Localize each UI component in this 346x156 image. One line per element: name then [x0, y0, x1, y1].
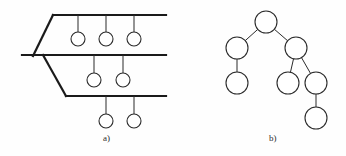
panel-b-caption: b): [269, 133, 277, 143]
edge-right-right: [301, 58, 310, 74]
figure-canvas: [0, 0, 346, 156]
edge-root-right: [274, 29, 287, 41]
edge-right-left: [290, 59, 293, 73]
node-a6: [99, 114, 113, 128]
edge-root-left: [245, 29, 258, 40]
figure-container: a) b): [0, 0, 346, 156]
tree-node-right-right: [305, 72, 327, 94]
panel-a-caption: a): [103, 133, 110, 143]
tree-node-left: [226, 37, 248, 59]
node-a2: [99, 32, 113, 46]
tree-node-left-child: [226, 72, 248, 94]
middle-left-diagonal: [43, 55, 66, 96]
tree-node-deep-leaf: [305, 107, 327, 129]
panel-a-diagram: [22, 15, 166, 128]
tree-node-root: [255, 11, 277, 33]
panel-b-tree-diagram: [226, 11, 327, 129]
node-a4: [87, 73, 101, 87]
node-a3: [127, 32, 141, 46]
top-left-diagonal: [33, 15, 53, 56]
node-a1: [71, 32, 85, 46]
node-a5: [116, 73, 130, 87]
tree-node-right-left: [277, 72, 299, 94]
tree-node-right: [285, 37, 307, 59]
node-a7: [127, 114, 141, 128]
